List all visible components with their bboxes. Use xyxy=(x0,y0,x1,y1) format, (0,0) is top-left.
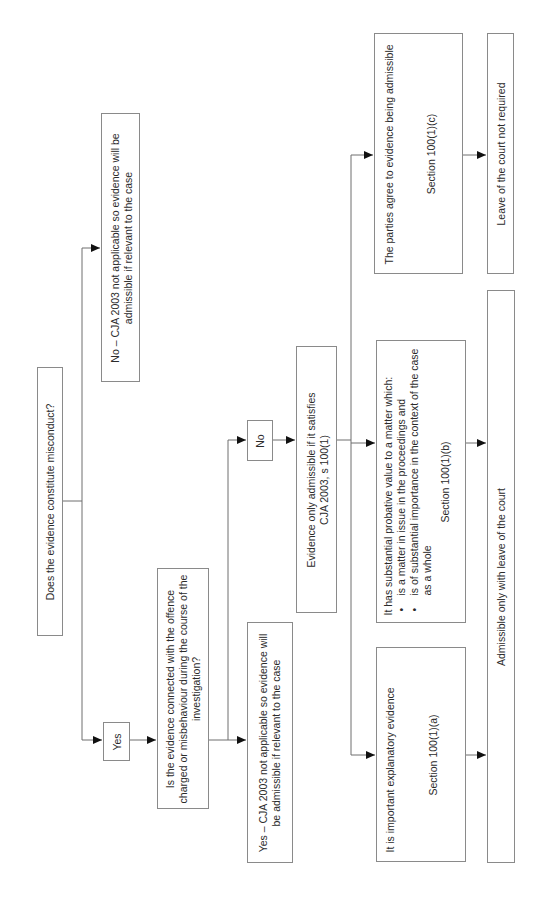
leave-not-required-box: Leave of the court not required xyxy=(487,33,514,274)
gateway-b-box: It has substantial probative value to a … xyxy=(376,340,466,623)
yes-not-applicable-box: Yes – CJA 2003 not applicable so evidenc… xyxy=(247,622,293,863)
gateway-c-section: Section 100(1)(c) xyxy=(424,43,437,264)
gateway-c-box: The parties agree to evidence being admi… xyxy=(374,33,463,274)
gateway-a-text: It is important explanatory evidence xyxy=(384,657,397,852)
no-label-text: No xyxy=(254,434,267,447)
no-not-applicable-text: No – CJA 2003 not applicable so evidence… xyxy=(108,123,134,372)
yes-label-text: Yes xyxy=(110,733,123,750)
gateway-a-section: Section 100(1)(a) xyxy=(427,657,440,852)
question-misconduct-text: Does the evidence constitute misconduct? xyxy=(44,403,57,600)
admissible-with-leave-box: Admissible only with leave of the court xyxy=(487,290,515,863)
no-not-applicable-box: No – CJA 2003 not applicable so evidence… xyxy=(101,113,140,382)
yes-label-box: Yes xyxy=(103,722,130,761)
leave-not-required-text: Leave of the court not required xyxy=(494,82,507,225)
question-misconduct-box: Does the evidence constitute misconduct? xyxy=(37,367,63,636)
question-connected-text: Is the evidence connected with the offen… xyxy=(164,574,203,803)
yes-not-applicable-text: Yes – CJA 2003 not applicable so evidenc… xyxy=(257,630,283,855)
gateway-b-bullet-1: is a matter in issue in the proceedings … xyxy=(395,348,408,601)
gateway-b-section: Section 100(1)(b) xyxy=(439,348,452,615)
gateway-b-text: It has substantial probative value to a … xyxy=(382,348,395,615)
evidence-only-admissible-box: Evidence only admissible if it satisfies… xyxy=(296,346,337,613)
gateway-a-box: It is important explanatory evidence Sec… xyxy=(376,647,466,862)
question-connected-box: Is the evidence connected with the offen… xyxy=(157,568,209,809)
no-label-box: No xyxy=(247,420,273,461)
flowchart-canvas: Does the evidence constitute misconduct?… xyxy=(0,0,544,910)
gateway-b-bullet-2: is of substantial importance in the cont… xyxy=(408,348,434,601)
evidence-only-admissible-text: Evidence only admissible if it satisfies… xyxy=(304,386,330,573)
gateway-b-bullets: is a matter in issue in the proceedings … xyxy=(395,348,434,615)
admissible-with-leave-text: Admissible only with leave of the court xyxy=(495,488,508,666)
gateway-c-text: The parties agree to evidence being admi… xyxy=(382,43,395,264)
